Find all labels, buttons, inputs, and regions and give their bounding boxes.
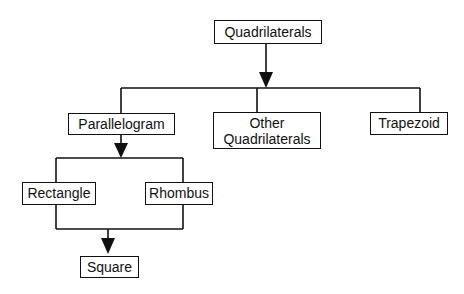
arrowhead-icon (259, 72, 273, 88)
arrowhead-icon (101, 238, 115, 254)
node-square: Square (80, 256, 139, 278)
node-rhombus: Rhombus (145, 182, 213, 205)
arrowhead-icon (114, 143, 128, 158)
node-quadrilaterals: Quadrilaterals (214, 20, 322, 44)
node-label: Rectangle (27, 186, 90, 201)
node-label: Other (249, 115, 284, 131)
node-other-quadrilaterals: Other Quadrilaterals (213, 112, 321, 149)
node-label: Quadrilaterals (223, 131, 310, 147)
node-trapezoid: Trapezoid (370, 112, 448, 135)
node-label: Parallelogram (78, 117, 164, 132)
node-label: Square (87, 260, 132, 275)
node-label: Rhombus (149, 186, 209, 201)
node-rectangle: Rectangle (22, 182, 96, 205)
node-label: Quadrilaterals (224, 25, 311, 40)
node-parallelogram: Parallelogram (68, 113, 175, 135)
node-label: Trapezoid (378, 116, 440, 131)
